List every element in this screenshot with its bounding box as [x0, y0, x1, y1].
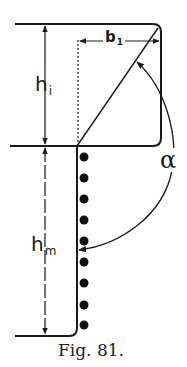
- figure-81: hi hm b1 α Fig. 81.: [0, 0, 187, 367]
- label-h-m-subscript: m: [45, 244, 57, 258]
- label-h-i-base: h: [35, 72, 48, 96]
- label-b-1-base: b: [105, 28, 116, 46]
- label-b-1: b1: [103, 30, 125, 45]
- label-h-i: hi: [35, 74, 52, 94]
- label-h-i-subscript: i: [49, 84, 52, 98]
- upper-box-outline: [10, 24, 161, 146]
- label-h-m: hm: [31, 234, 56, 254]
- figure-caption: Fig. 81.: [58, 342, 124, 359]
- label-alpha: α: [160, 148, 176, 172]
- dot-column: [80, 153, 89, 330]
- label-h-m-base: h: [31, 232, 44, 256]
- diagram-drawing: [0, 0, 187, 367]
- label-b-1-subscript: 1: [117, 37, 123, 47]
